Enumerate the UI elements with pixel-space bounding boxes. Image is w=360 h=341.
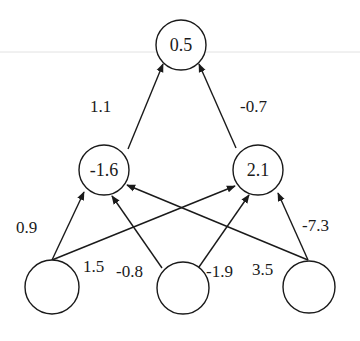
node-bias-label: 0.5 (170, 35, 193, 55)
edge-weight-label: -0.8 (116, 262, 143, 281)
edge-weight-label: 0.9 (16, 218, 37, 237)
neural-network-diagram: 1.1-0.70.91.5-0.8-1.93.5-7.3 0.5-1.62.1 (0, 0, 360, 341)
node-circle (283, 261, 335, 313)
edge-weight-label: 1.5 (83, 257, 104, 276)
node-bias-label: -1.6 (90, 160, 119, 180)
nodes-layer: 0.5-1.62.1 (25, 20, 335, 314)
input-node (157, 262, 209, 314)
edge-weight-label: -1.9 (206, 262, 233, 281)
input-node (283, 261, 335, 313)
edge-i2-h2 (199, 195, 249, 267)
edge-weight-label: 3.5 (252, 260, 273, 279)
edge-i1-h1 (52, 192, 84, 260)
edge-h2-o1 (199, 64, 236, 148)
edge-weight-label: -7.3 (302, 216, 329, 235)
edge-i3-h1 (127, 185, 308, 260)
edge-labels-layer: 1.1-0.70.91.5-0.8-1.93.5-7.3 (16, 97, 329, 281)
node-circle (157, 262, 209, 314)
edge-i1-h2 (52, 186, 235, 260)
edge-weight-label: 1.1 (90, 97, 111, 116)
hidden-node: -1.6 (79, 145, 129, 195)
edge-weight-label: -0.7 (240, 97, 267, 116)
hidden-node: 2.1 (233, 145, 283, 195)
edge-h1-o1 (128, 64, 163, 149)
input-node (25, 260, 79, 314)
node-circle (25, 260, 79, 314)
output-node: 0.5 (156, 20, 206, 70)
node-bias-label: 2.1 (247, 160, 270, 180)
